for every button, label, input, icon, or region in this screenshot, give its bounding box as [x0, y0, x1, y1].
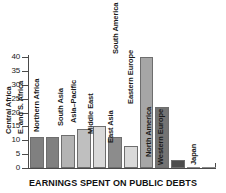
bar[interactable]	[202, 167, 215, 168]
y-axis-tick-label: 5	[0, 150, 20, 158]
bar-category-label: E. and S. Africa	[18, 81, 26, 134]
bar[interactable]	[30, 137, 43, 168]
bar-category-label: South Asia	[57, 88, 65, 126]
bar[interactable]	[77, 129, 90, 168]
bar-category-label: East Asia	[107, 110, 115, 143]
y-axis-tick-label: 35	[0, 67, 20, 75]
bar-group: Japan	[201, 0, 217, 169]
bar-category-label: Western Europe	[157, 109, 165, 165]
bar[interactable]	[61, 135, 74, 168]
bar-category-label: Northern Africa	[34, 78, 42, 131]
bar-category-label: Asia–Pacific	[70, 80, 78, 123]
bar-category-label: Central Africa	[5, 87, 13, 135]
bar-category-label: Japan	[191, 144, 199, 165]
bar-group: North America	[170, 0, 186, 169]
bar-category-label: Eastern Europe	[127, 50, 135, 104]
bar-group: South Asia	[76, 0, 92, 169]
bar-category-label: South America	[113, 3, 121, 54]
chart-title: EARNINGS SPENT ON PUBLIC DEBTS	[0, 178, 226, 188]
bar[interactable]	[187, 167, 200, 168]
bar-group: E. and S. Africa	[45, 0, 61, 169]
bar[interactable]	[46, 137, 59, 168]
bar[interactable]	[171, 160, 184, 168]
y-axis-tick-label: 40	[0, 53, 20, 61]
y-axis-tick-label: 10	[0, 136, 20, 144]
y-axis-tick-label: 0	[0, 164, 20, 172]
bar[interactable]	[93, 126, 106, 168]
bar-chart: 0510152025303540 Central AfricaE. and S.…	[0, 0, 226, 193]
bar-category-label: North America	[145, 107, 153, 157]
bar-series: Central AfricaE. and S. AfricaNorthern A…	[29, 0, 217, 169]
bar[interactable]	[124, 146, 137, 168]
bar-group: Asia–Pacific	[92, 0, 108, 169]
bar-category-label: Middle East	[87, 94, 95, 135]
